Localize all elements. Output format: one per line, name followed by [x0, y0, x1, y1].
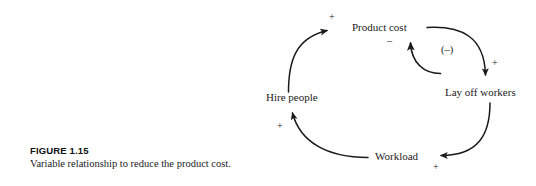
link-lay-off-workers-to-workload [441, 103, 490, 156]
polarity-sign-lay-off-workers-to-workload: + [433, 162, 439, 172]
polarity-sign-product-cost-to-lay-off-workers: + [492, 58, 498, 68]
polarity-sign-workload-to-hire-people: + [277, 121, 283, 131]
figure-page: Product cost Lay off workers Workload Hi… [0, 0, 536, 186]
link-hire-people-to-product-cost [289, 31, 328, 93]
figure-caption-text: Variable relationship to reduce the prod… [30, 157, 245, 170]
polarity-sign-lay-off-workers-to-product-cost: – [387, 36, 392, 46]
figure-number: FIGURE 1.15 [30, 145, 245, 156]
loop-polarity-label: (–) [441, 45, 453, 55]
node-label-product-cost: Product cost [352, 21, 407, 33]
link-lay-off-workers-to-product-cost [411, 43, 441, 74]
link-workload-to-hire-people [293, 113, 369, 158]
figure-caption-block: FIGURE 1.15 Variable relationship to red… [30, 145, 245, 170]
node-label-workload: Workload [375, 150, 418, 162]
link-product-cost-to-lay-off-workers [427, 27, 486, 75]
polarity-sign-hire-people-to-product-cost: + [329, 12, 335, 22]
node-label-lay-off-workers: Lay off workers [445, 86, 516, 98]
node-label-hire-people: Hire people [266, 91, 318, 103]
